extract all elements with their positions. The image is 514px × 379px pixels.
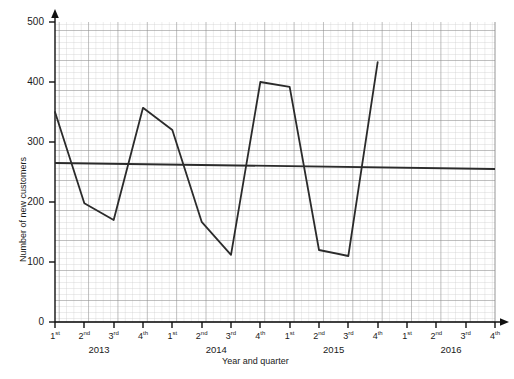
x-tick-15: 4th	[482, 330, 508, 341]
x-tick-13: 2nd	[423, 330, 449, 341]
y-tick-0: 0	[14, 316, 44, 327]
x-tick-5: 2nd	[189, 330, 215, 341]
x-tick-14: 3rd	[453, 330, 479, 341]
year-label-2015: 2015	[311, 344, 357, 355]
line-chart: 500 400 300 200 100 0 Number of new cust…	[0, 0, 514, 379]
x-tick-2: 3rd	[101, 330, 127, 341]
y-tick-400: 400	[14, 76, 44, 87]
x-tick-11: 4th	[365, 330, 391, 341]
x-tick-3: 4th	[130, 330, 156, 341]
x-tick-4: 1st	[159, 330, 185, 341]
year-label-2014: 2014	[193, 344, 239, 355]
grid-major	[55, 22, 495, 322]
x-axis-title: Year and quarter	[222, 356, 289, 366]
y-axis-title: Number of new customers	[18, 157, 28, 262]
x-tick-6: 3rd	[218, 330, 244, 341]
x-tick-1: 2nd	[71, 330, 97, 341]
x-tick-10: 3rd	[335, 330, 361, 341]
x-tick-9: 2nd	[306, 330, 332, 341]
y-tick-500: 500	[14, 16, 44, 27]
x-tick-0: 1st	[42, 330, 68, 341]
x-tick-7: 4th	[247, 330, 273, 341]
x-tick-12: 1st	[394, 330, 420, 341]
y-tick-300: 300	[14, 136, 44, 147]
x-tick-8: 1st	[277, 330, 303, 341]
year-label-2016: 2016	[428, 344, 474, 355]
chart-canvas	[0, 0, 514, 379]
year-label-2013: 2013	[76, 344, 122, 355]
